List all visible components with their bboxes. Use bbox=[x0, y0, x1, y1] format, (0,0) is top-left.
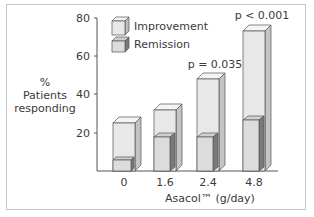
legend-swatch-remission bbox=[112, 37, 129, 52]
p-value-4-8: p < 0.001 bbox=[235, 9, 290, 22]
bar-group-1 bbox=[154, 104, 182, 171]
y-tick-40: 40 bbox=[76, 88, 90, 101]
y-axis-label-line3: responding bbox=[14, 102, 75, 115]
x-tick-1-6: 1.6 bbox=[156, 176, 174, 189]
legend: Improvement Remission bbox=[112, 17, 209, 52]
legend-label-improvement: Improvement bbox=[134, 20, 209, 33]
bar-chart: 80 60 40 20 % Patients responding Improv… bbox=[0, 0, 314, 217]
p-value-2-4: p = 0.035 bbox=[188, 58, 243, 71]
legend-label-remission: Remission bbox=[134, 38, 190, 51]
bar-remission-3 bbox=[243, 120, 259, 171]
bar-remission-2 bbox=[197, 137, 213, 171]
bar-remission-0 bbox=[113, 160, 131, 171]
bar-group-2 bbox=[197, 73, 225, 171]
bar-remission-1 bbox=[154, 137, 170, 171]
x-tick-0: 0 bbox=[121, 176, 128, 189]
bar-group-0 bbox=[113, 117, 141, 171]
y-tick-80: 80 bbox=[76, 12, 90, 25]
x-axis-label: Asacol™ (g/day) bbox=[165, 192, 255, 205]
x-tick-4-8: 4.8 bbox=[245, 176, 263, 189]
y-axis-label-line2: Patients bbox=[23, 89, 67, 102]
y-axis-label-line1: % bbox=[40, 76, 50, 89]
x-tick-2-4: 2.4 bbox=[199, 176, 217, 189]
y-tick-60: 60 bbox=[76, 50, 90, 63]
bar-group-3 bbox=[243, 25, 271, 171]
legend-swatch-improvement bbox=[112, 17, 129, 35]
y-tick-20: 20 bbox=[76, 127, 90, 140]
